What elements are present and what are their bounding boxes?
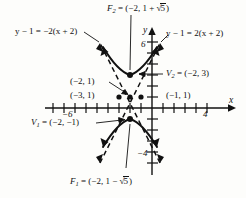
- label-center-point: (−2, 1): [70, 77, 95, 86]
- leader-focus-lower: [126, 124, 130, 168]
- leader-asymptote-left: [84, 32, 99, 42]
- point-center-dot: [127, 94, 132, 99]
- label-vertex-upper: V2 = (−2, 3): [166, 69, 209, 80]
- x-axis-label: x: [229, 96, 233, 106]
- focus-upper-equation: = (−2, 1 +: [116, 3, 157, 13]
- vertex-lower-equation: = (−2, −1): [40, 117, 79, 127]
- center-point-text: (−2, 1): [70, 76, 95, 86]
- y-tick-label-6: 6: [141, 40, 146, 49]
- leader-vertex-lower: [96, 120, 122, 123]
- leader-focus-upper: [130, 15, 131, 70]
- point-left-dot: [116, 94, 121, 99]
- asymptote-right-text: y − 1 = 2(x + 2): [166, 28, 223, 38]
- label-vertex-lower: V1 = (−2, −1): [31, 118, 79, 129]
- vertex-lower-dot: [127, 116, 133, 122]
- label-asymptote-right: y − 1 = 2(x + 2): [166, 29, 223, 38]
- label-left-point: (−3, 1): [70, 91, 95, 100]
- point-right-dot: [138, 94, 143, 99]
- label-right-point: (−1, 1): [166, 91, 191, 100]
- y-axis-label: y: [143, 26, 147, 36]
- plotted-points: [116, 72, 143, 122]
- asymptote-left-text: y − 1 = −2(x + 2): [15, 26, 77, 36]
- label-focus-upper: F2 = (−2, 1 + √5): [107, 3, 169, 15]
- label-asymptote-left: y − 1 = −2(x + 2): [15, 27, 77, 36]
- focus-upper-close: ): [166, 3, 169, 13]
- vertex-upper-dot: [127, 72, 133, 78]
- left-point-text: (−3, 1): [70, 90, 95, 100]
- y-tick-label-neg4: −4: [137, 149, 148, 158]
- y-axis-arrowhead: [148, 27, 155, 35]
- vertex-upper-equation: = (−2, 3): [175, 68, 209, 78]
- x-tick-label-neg6: −6: [62, 110, 73, 119]
- focus-lower-equation: = (−2, 1 −: [79, 176, 120, 186]
- x-tick-label-4: 4: [203, 110, 208, 119]
- label-focus-lower: F1 = (−2, 1 − √5): [70, 176, 132, 188]
- right-point-text: (−1, 1): [166, 90, 191, 100]
- figure-page: F2 = (−2, 1 + √5) F1 = (−2, 1 − √5) V2 =…: [0, 0, 246, 198]
- lower-branch: [103, 119, 157, 147]
- focus-lower-close: ): [129, 176, 132, 186]
